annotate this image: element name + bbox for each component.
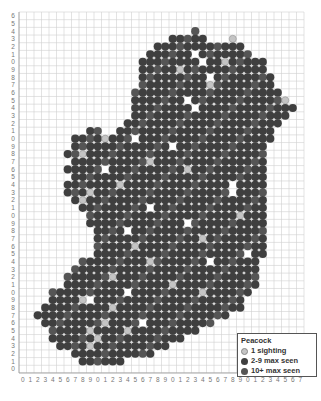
medium-dot-icon [241, 368, 248, 375]
svg-text:0: 0 [11, 289, 15, 296]
svg-text:7: 7 [298, 376, 302, 383]
svg-text:5: 5 [11, 250, 15, 257]
svg-text:0: 0 [11, 365, 15, 372]
svg-text:5: 5 [133, 376, 137, 383]
svg-text:9: 9 [11, 143, 15, 150]
svg-text:8: 8 [11, 227, 15, 234]
svg-text:7: 7 [73, 376, 77, 383]
svg-text:5: 5 [11, 173, 15, 180]
legend-item-few: 2-9 max seen [241, 356, 313, 366]
svg-text:0: 0 [11, 212, 15, 219]
legend-item-many: 10+ max seen [241, 366, 313, 376]
svg-text:0: 0 [21, 376, 25, 383]
svg-text:7: 7 [11, 312, 15, 319]
svg-text:5: 5 [11, 97, 15, 104]
svg-text:6: 6 [216, 376, 220, 383]
svg-text:7: 7 [223, 376, 227, 383]
legend-item-single: 1 sighting [241, 346, 313, 356]
svg-text:4: 4 [11, 181, 15, 188]
svg-text:3: 3 [193, 376, 197, 383]
svg-text:2: 2 [11, 120, 15, 127]
svg-text:0: 0 [11, 135, 15, 142]
svg-text:3: 3 [118, 376, 122, 383]
svg-text:9: 9 [11, 220, 15, 227]
svg-text:5: 5 [11, 327, 15, 334]
svg-text:2: 2 [111, 376, 115, 383]
svg-text:0: 0 [246, 376, 250, 383]
svg-text:1: 1 [11, 51, 15, 58]
svg-text:4: 4 [201, 376, 205, 383]
svg-text:8: 8 [231, 376, 235, 383]
svg-text:3: 3 [11, 112, 15, 119]
svg-text:3: 3 [43, 376, 47, 383]
svg-text:6: 6 [11, 319, 15, 326]
svg-text:4: 4 [11, 104, 15, 111]
svg-text:2: 2 [11, 196, 15, 203]
svg-text:6: 6 [11, 12, 15, 19]
svg-text:9: 9 [163, 376, 167, 383]
svg-text:6: 6 [11, 166, 15, 173]
svg-text:7: 7 [11, 235, 15, 242]
svg-text:1: 1 [11, 127, 15, 134]
svg-text:1: 1 [103, 376, 107, 383]
svg-text:4: 4 [276, 376, 280, 383]
svg-text:6: 6 [11, 243, 15, 250]
svg-text:8: 8 [11, 74, 15, 81]
svg-text:3: 3 [11, 266, 15, 273]
svg-text:8: 8 [11, 150, 15, 157]
light-dot-icon [241, 348, 248, 355]
svg-text:3: 3 [268, 376, 272, 383]
svg-text:4: 4 [126, 376, 130, 383]
svg-text:3: 3 [11, 189, 15, 196]
svg-text:7: 7 [11, 81, 15, 88]
svg-text:2: 2 [261, 376, 265, 383]
svg-text:5: 5 [208, 376, 212, 383]
svg-text:6: 6 [141, 376, 145, 383]
svg-text:9: 9 [238, 376, 242, 383]
svg-text:1: 1 [253, 376, 257, 383]
svg-text:0: 0 [11, 58, 15, 65]
svg-text:1: 1 [178, 376, 182, 383]
svg-text:4: 4 [11, 28, 15, 35]
svg-text:2: 2 [36, 376, 40, 383]
svg-text:7: 7 [148, 376, 152, 383]
svg-text:0: 0 [171, 376, 175, 383]
svg-text:4: 4 [11, 258, 15, 265]
legend-title: Peacock [241, 336, 313, 346]
svg-text:5: 5 [11, 20, 15, 27]
svg-text:9: 9 [88, 376, 92, 383]
svg-text:1: 1 [11, 358, 15, 365]
svg-text:1: 1 [11, 281, 15, 288]
svg-text:5: 5 [58, 376, 62, 383]
dark-dot-icon [241, 358, 248, 365]
svg-text:7: 7 [11, 158, 15, 165]
svg-text:0: 0 [96, 376, 100, 383]
svg-text:6: 6 [11, 89, 15, 96]
svg-text:3: 3 [11, 35, 15, 42]
svg-text:8: 8 [156, 376, 160, 383]
svg-text:8: 8 [81, 376, 85, 383]
svg-text:6: 6 [291, 376, 295, 383]
svg-text:9: 9 [11, 296, 15, 303]
svg-text:4: 4 [11, 335, 15, 342]
svg-text:1: 1 [28, 376, 32, 383]
map-legend: Peacock 1 sighting 2-9 max seen 10+ max … [237, 333, 317, 377]
svg-text:2: 2 [11, 273, 15, 280]
svg-text:5: 5 [283, 376, 287, 383]
svg-text:2: 2 [11, 350, 15, 357]
svg-text:2: 2 [11, 43, 15, 50]
svg-text:1: 1 [11, 204, 15, 211]
svg-text:9: 9 [11, 66, 15, 73]
svg-text:8: 8 [11, 304, 15, 311]
svg-text:4: 4 [51, 376, 55, 383]
svg-text:2: 2 [186, 376, 190, 383]
svg-text:3: 3 [11, 342, 15, 349]
svg-text:6: 6 [66, 376, 70, 383]
